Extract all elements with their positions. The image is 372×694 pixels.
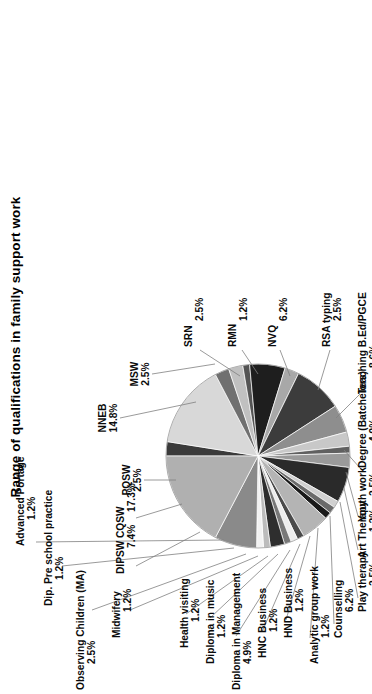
slice-percent-counselling: 6.2% bbox=[344, 589, 355, 612]
pie-slices-group bbox=[166, 364, 350, 548]
slice-percent-dipsw: 7.4% bbox=[126, 525, 137, 548]
leader-line-dip-preschool bbox=[62, 548, 234, 566]
slice-percent-art-therapy: 1.2% bbox=[368, 509, 372, 532]
rotated-figure-canvas: Range of qualifications in family suppor… bbox=[0, 0, 372, 694]
leader-line-cqsw bbox=[136, 504, 182, 518]
slice-label-hnc-business: HNC Business bbox=[257, 587, 268, 658]
slice-percent-dip-management: 4.9% bbox=[242, 641, 253, 664]
pie-plot-area: PQSW2.5%NNEB14.8%MSW2.5%SRN2.5%RMN1.2%NV… bbox=[0, 0, 372, 694]
slice-percent-degree: 4.9% bbox=[368, 419, 372, 442]
slice-percent-hnc-business: 1.2% bbox=[268, 609, 279, 632]
slice-label-rmn: RMN bbox=[227, 324, 238, 347]
slice-percent-nvq: 6.2% bbox=[278, 298, 289, 321]
slice-percent-youth-work: 2.5% bbox=[368, 473, 372, 496]
slice-label-srn: SRN bbox=[183, 325, 194, 347]
slice-label-dip-management: Diploma in Management bbox=[231, 572, 242, 690]
slice-percent-dip-music: 1.2% bbox=[216, 615, 227, 638]
slice-label-rsa-typing: RSA typing bbox=[321, 292, 332, 347]
slice-percent-midwifery: 1.2% bbox=[122, 589, 133, 612]
slice-percent-rsa-typing: 2.5% bbox=[332, 298, 343, 321]
slice-percent-observing: 2.5% bbox=[86, 641, 97, 664]
leader-line-rsa-typing bbox=[318, 350, 330, 390]
slice-label-observing: Observing Children (MA) bbox=[75, 570, 86, 690]
leader-line-dipsw bbox=[136, 532, 200, 566]
slice-label-art-therapy: Art Therapy bbox=[357, 500, 368, 558]
slice-label-msw: MSW bbox=[129, 361, 140, 386]
slice-label-degree: Degree (Batchelors) bbox=[357, 371, 368, 468]
slice-percent-adv-portage: 1.2% bbox=[26, 497, 37, 520]
pie-chart-figure: Range of qualifications in family suppor… bbox=[0, 0, 372, 694]
slice-percent-nneb: 14.8% bbox=[108, 404, 119, 433]
slice-percent-dip-preschool: 1.2% bbox=[54, 557, 65, 580]
leader-line-msw bbox=[152, 364, 215, 374]
slice-percent-health-visiting: 1.2% bbox=[190, 599, 201, 622]
slice-label-dip-preschool: Dip. Pre school practice bbox=[43, 490, 54, 606]
leader-line-art-therapy bbox=[344, 488, 358, 550]
slice-percent-teaching: 8.6% bbox=[368, 345, 372, 368]
slice-percent-srn: 2.5% bbox=[194, 298, 205, 321]
slice-label-counselling: Counselling bbox=[333, 580, 344, 638]
slice-label-midwifery: Midwifery bbox=[111, 591, 122, 638]
slice-label-nneb: NNEB bbox=[97, 404, 108, 433]
slice-label-dipsw: DIPSW bbox=[115, 540, 126, 574]
slice-label-play-therapy: Play therapy bbox=[357, 551, 368, 612]
slice-label-adv-portage: Advanced Portage bbox=[15, 456, 26, 546]
slice-percent-rmn: 1.2% bbox=[238, 298, 249, 321]
slice-percent-hnd-business: 1.2% bbox=[294, 589, 305, 612]
slice-percent-analytic: 1.2% bbox=[320, 615, 331, 638]
slice-percent-cqsw: 17.3% bbox=[126, 483, 137, 512]
slice-label-nvq: NVQ bbox=[267, 325, 278, 347]
slice-percent-play-therapy: 2.5% bbox=[368, 563, 372, 586]
slice-label-dip-music: Diploma in music bbox=[205, 579, 216, 664]
slice-percent-msw: 2.5% bbox=[140, 362, 151, 385]
slice-label-hnd-business: HND Business bbox=[283, 567, 294, 638]
slice-label-cqsw: CQSW bbox=[115, 506, 126, 538]
slice-label-health-visiting: Health visiting bbox=[179, 578, 190, 648]
slice-label-analytic: Analytic group work bbox=[309, 566, 320, 664]
